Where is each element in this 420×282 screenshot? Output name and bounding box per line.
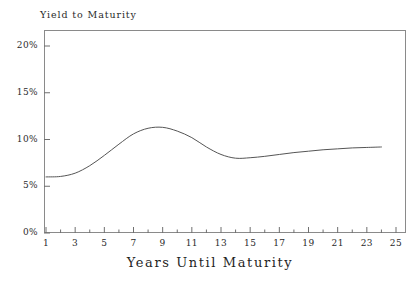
x-axis-tick-label: 3 xyxy=(62,238,88,248)
x-axis-tick-label: 25 xyxy=(383,238,409,248)
x-axis-tick-label: 7 xyxy=(121,238,147,248)
x-axis-tick-label: 15 xyxy=(237,238,263,248)
x-axis-tick-label: 17 xyxy=(266,238,292,248)
chart-screenshot: Yield to Maturity 0%5%10%15%20% 13579111… xyxy=(0,0,420,282)
x-axis-tick-label: 23 xyxy=(354,238,380,248)
y-axis-tick-label: 5% xyxy=(4,180,38,190)
x-axis-tick-label: 19 xyxy=(296,238,322,248)
x-axis-tick-label: 1 xyxy=(33,238,59,248)
x-axis-tick-label: 21 xyxy=(325,238,351,248)
x-axis-tick-label: 13 xyxy=(208,238,234,248)
x-axis-tick-label: 11 xyxy=(179,238,205,248)
plot-frame xyxy=(44,30,406,233)
y-axis-tick-label: 15% xyxy=(4,87,38,97)
x-axis-tick-label: 9 xyxy=(150,238,176,248)
y-axis-tick-label: 10% xyxy=(4,134,38,144)
x-axis-title: Years Until Maturity xyxy=(0,255,420,270)
x-axis-tick-label: 5 xyxy=(91,238,117,248)
y-axis-tick-label: 0% xyxy=(4,227,38,237)
chart-title: Yield to Maturity xyxy=(40,9,137,20)
y-axis-tick-label: 20% xyxy=(4,40,38,50)
